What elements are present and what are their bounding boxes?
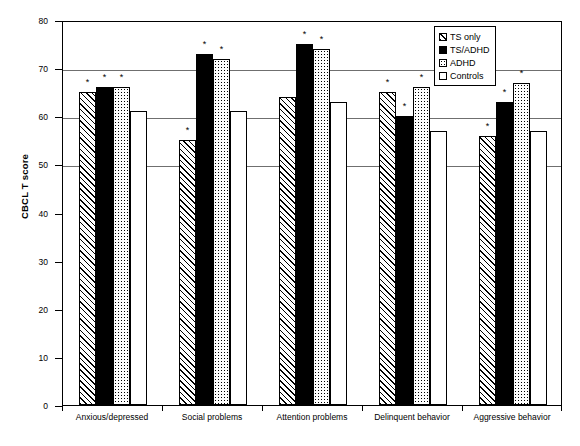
- legend-item: ADHD: [439, 56, 490, 69]
- legend-item: Controls: [439, 69, 490, 82]
- significance-asterisk: *: [79, 78, 96, 87]
- significance-asterisk: *: [379, 78, 396, 87]
- significance-asterisk: *: [296, 30, 313, 39]
- legend-item: TS only: [439, 30, 490, 43]
- significance-asterisk: *: [496, 88, 513, 97]
- y-tick-label: 10: [2, 353, 48, 362]
- bar: [230, 111, 247, 405]
- y-tick-mark: [55, 406, 62, 407]
- x-tick-mark: [262, 406, 263, 411]
- bar: [296, 44, 313, 405]
- y-tick-label: 70: [2, 65, 48, 74]
- x-tick-mark: [561, 406, 562, 411]
- x-axis-category-labels: Anxious/depressedSocial problemsAttentio…: [62, 412, 562, 432]
- chart-legend: TS onlyTS/ADHDADHDControls: [434, 26, 496, 86]
- bar: [379, 92, 396, 405]
- significance-asterisk: *: [179, 126, 196, 135]
- legend-label: TS only: [450, 32, 481, 42]
- bar: [113, 87, 130, 405]
- legend-swatch-icon: [439, 72, 447, 80]
- bar: [96, 87, 113, 405]
- bar-group: **: [263, 22, 363, 405]
- x-tick-mark: [362, 406, 363, 411]
- legend-label: TS/ADHD: [450, 45, 490, 55]
- y-tick-mark: [55, 21, 62, 22]
- legend-swatch-icon: [439, 33, 447, 41]
- significance-asterisk: *: [213, 45, 230, 54]
- y-tick-mark: [55, 262, 62, 263]
- bar: [396, 116, 413, 405]
- bar: [213, 59, 230, 406]
- y-tick-label: 20: [2, 305, 48, 314]
- x-category-label: Delinquent behavior: [362, 412, 462, 422]
- legend-label: Controls: [450, 71, 484, 81]
- bar: [79, 92, 96, 405]
- significance-asterisk: *: [196, 40, 213, 49]
- bar: [196, 54, 213, 405]
- y-tick-mark: [55, 358, 62, 359]
- y-tick-mark: [55, 117, 62, 118]
- y-tick-mark: [55, 310, 62, 311]
- x-category-label: Social problems: [162, 412, 262, 422]
- bar: [179, 140, 196, 405]
- bar: [513, 83, 530, 405]
- x-category-label: Attention problems: [262, 412, 362, 422]
- x-category-label: Anxious/depressed: [62, 412, 162, 422]
- bar: [430, 131, 447, 405]
- significance-asterisk: *: [413, 73, 430, 82]
- bar: [496, 102, 513, 405]
- y-tick-mark: [55, 165, 62, 166]
- bar: [313, 49, 330, 405]
- bar: [413, 87, 430, 405]
- bar-group: ***: [163, 22, 263, 405]
- legend-swatch-icon: [439, 59, 447, 67]
- bar: [530, 131, 547, 405]
- y-tick-label: 80: [2, 17, 48, 26]
- bar: [330, 102, 347, 405]
- y-axis-title: CBCL T score: [19, 77, 30, 297]
- significance-asterisk: *: [96, 73, 113, 82]
- x-tick-mark: [62, 406, 63, 411]
- bar: [279, 97, 296, 405]
- chart-figure: 01020304050607080 CBCL T score *********…: [0, 0, 580, 446]
- y-tick-label: 0: [2, 402, 48, 411]
- legend-swatch-icon: [439, 46, 447, 54]
- bar: [130, 111, 147, 405]
- y-tick-mark: [55, 69, 62, 70]
- x-tick-mark: [462, 406, 463, 411]
- bar-group: ***: [63, 22, 163, 405]
- x-tick-mark: [162, 406, 163, 411]
- significance-asterisk: *: [313, 35, 330, 44]
- y-tick-mark: [55, 214, 62, 215]
- significance-asterisk: *: [396, 102, 413, 111]
- x-category-label: Aggressive behavior: [462, 412, 562, 422]
- legend-label: ADHD: [450, 58, 476, 68]
- bar: [479, 136, 496, 406]
- significance-asterisk: *: [479, 122, 496, 131]
- significance-asterisk: *: [113, 73, 130, 82]
- legend-item: TS/ADHD: [439, 43, 490, 56]
- significance-asterisk: *: [513, 69, 530, 78]
